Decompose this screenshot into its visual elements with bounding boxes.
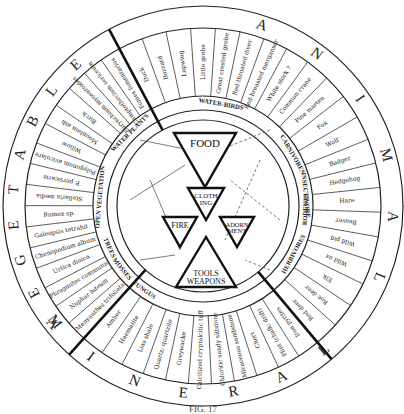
kingdom-letter: I	[84, 348, 98, 364]
kingdom-letter: A	[10, 147, 28, 162]
tools-weapons-label: WEAPONS	[187, 277, 226, 286]
kingdom-letter: L	[371, 270, 389, 284]
item-label: Stellaria media	[35, 193, 82, 203]
item-label: Elk	[321, 273, 333, 284]
item-label: P. persicaria	[42, 173, 80, 188]
item-label: Lias shale	[136, 322, 155, 353]
adornment-label: MENT	[228, 227, 246, 234]
item-label: Greywacke	[175, 331, 188, 366]
item-label: Haematite	[117, 313, 140, 344]
clothing-label: ING	[200, 199, 212, 207]
kingdom-letter: A	[385, 211, 402, 223]
kingdom-letter: N	[127, 371, 143, 390]
item-label: Chloritic sandy siltstone	[211, 312, 227, 387]
kingdom-letter: E	[178, 384, 189, 401]
kingdom-letter: I	[352, 92, 368, 105]
item-label: Micaceous sandstone	[225, 313, 248, 378]
economy-wheel-diagram: DuckBuzzardLapwingLittle grebeGreat cres…	[0, 0, 404, 414]
item-label: Lapwing	[177, 50, 189, 77]
item-label: Roe deer	[303, 284, 329, 306]
item-label: Hedgehog	[329, 174, 361, 187]
kingdom-letter: R	[227, 382, 239, 399]
item-label: Amber	[103, 308, 122, 329]
kingdom-letter: E	[5, 220, 22, 231]
kingdom-letter: E	[67, 55, 85, 73]
item-label: Wolf	[324, 136, 340, 149]
kingdom-letter: A	[254, 15, 269, 34]
fire-label: FIRE	[171, 221, 188, 230]
item-label: Hare	[339, 196, 355, 204]
kingdom-letter: E	[24, 286, 42, 301]
item-label: Quartz; quartzite	[152, 318, 174, 371]
kingdom-letter: B	[23, 113, 42, 129]
item-label: Fox	[315, 118, 328, 130]
item-label: Pine marten	[293, 94, 325, 124]
category-label: WATER-BIRDS	[198, 96, 244, 111]
item-label: Calcitized cryptalcitic tuff	[195, 310, 204, 390]
item-label: Badger	[328, 154, 352, 168]
item-label: Wild ox	[324, 253, 348, 268]
item-label: Red-throated diver	[230, 39, 253, 96]
kingdom-letter: L	[42, 82, 60, 99]
item-label: Wild pig	[329, 234, 356, 248]
category-label: RODENTS	[301, 193, 309, 225]
item-label: Little grebe	[199, 44, 207, 80]
item-label: Chert	[248, 331, 261, 350]
item-label: Beaver	[335, 217, 357, 226]
use-triangles: FOODCLOTHINGFIREADORNMENTTOOLSWEAPONS	[163, 133, 254, 287]
item-label: Buzzard	[156, 55, 170, 81]
item-label: Red deer	[290, 298, 314, 323]
kingdom-letter: T	[5, 184, 22, 195]
kingdom-letter: A	[273, 367, 290, 386]
figure-caption: FIG. 17	[189, 404, 218, 414]
food-label: FOOD	[190, 137, 220, 149]
item-label: Duck	[137, 66, 150, 84]
item-label: Rumex sp.	[43, 209, 75, 219]
kingdom-letter: G	[11, 253, 29, 268]
kingdom-letter: M	[377, 146, 396, 163]
